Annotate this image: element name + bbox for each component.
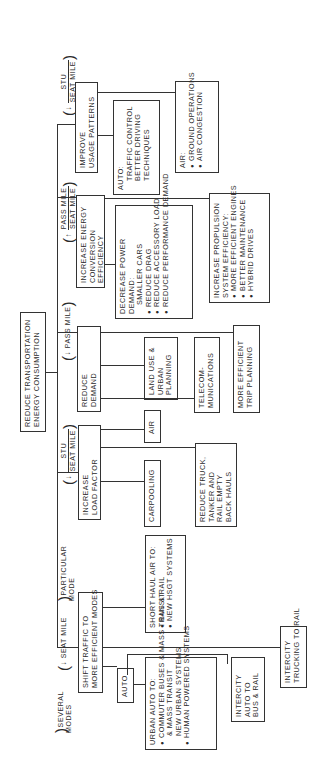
spine-layer: [0, 0, 320, 773]
spine-line: [57, 124, 58, 648]
connector: [46, 372, 57, 373]
